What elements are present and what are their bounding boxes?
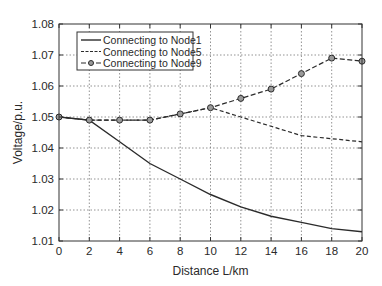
legend-label-1: Connecting to Node1: [103, 34, 202, 46]
data-point-marker: [86, 117, 92, 123]
x-tick-label: 10: [204, 245, 217, 257]
legend-marker-icon: [89, 61, 94, 66]
y-tick-label: 1.04: [32, 142, 55, 154]
x-tick-label: 16: [295, 245, 308, 257]
y-tick-label: 1.05: [32, 111, 54, 123]
data-point-marker: [329, 55, 335, 61]
y-tick-label: 1.07: [32, 49, 54, 61]
y-tick-label: 1.06: [32, 80, 54, 92]
voltage-distance-chart: 024681012141618201.011.021.031.041.051.0…: [0, 0, 382, 286]
x-tick-label: 20: [356, 245, 369, 257]
y-tick-label: 1.08: [32, 18, 54, 30]
data-point-marker: [147, 117, 153, 123]
chart-svg: 024681012141618201.011.021.031.041.051.0…: [0, 0, 382, 286]
x-tick-label: 0: [56, 245, 62, 257]
y-tick-label: 1.02: [32, 204, 54, 216]
y-tick-label: 1.01: [32, 235, 54, 247]
x-tick-label: 18: [325, 245, 338, 257]
x-tick-label: 12: [234, 245, 247, 257]
data-point-marker: [117, 117, 123, 123]
x-tick-label: 4: [116, 245, 123, 257]
x-axis-label: Distance L/km: [172, 264, 248, 278]
legend-label-2: Connecting to Node5: [103, 46, 202, 58]
legend-label-3: Connecting to Node9: [103, 57, 202, 69]
y-axis-label: Voltage/p.u.: [11, 101, 25, 164]
y-tick-label: 1.03: [32, 173, 54, 185]
data-point-marker: [268, 86, 274, 92]
x-tick-label: 14: [265, 245, 278, 257]
data-point-marker: [298, 71, 304, 77]
x-tick-label: 8: [177, 245, 183, 257]
data-point-marker: [208, 105, 214, 111]
x-tick-label: 2: [86, 245, 92, 257]
legend: Connecting to Node1Connecting to Node5Co…: [77, 32, 202, 70]
x-tick-label: 6: [147, 245, 153, 257]
data-point-marker: [177, 111, 183, 117]
data-point-marker: [238, 95, 244, 101]
